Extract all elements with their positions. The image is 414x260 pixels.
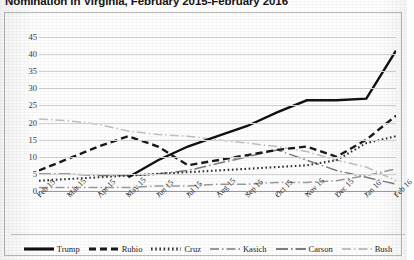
gridline (39, 71, 396, 72)
legend-swatch-carson (276, 244, 306, 254)
gridline (39, 174, 396, 175)
gridline (39, 37, 396, 38)
legend-swatch-kasich (210, 244, 240, 254)
legend-item-rubio[interactable]: Rubio (89, 244, 143, 254)
legend-label-cruz: Cruz (184, 244, 201, 254)
legend-item-kasich[interactable]: Kasich (210, 244, 267, 254)
y-axis-tick-label: 35 (11, 66, 37, 76)
gridline (39, 157, 396, 158)
gridline (39, 140, 396, 141)
gridline (39, 105, 396, 106)
legend-label-bush: Bush (375, 244, 392, 254)
legend-item-bush[interactable]: Bush (342, 244, 392, 254)
legend-item-trump[interactable]: Trump (24, 244, 80, 254)
y-axis-tick-label: 20 (11, 118, 37, 128)
legend-label-kasich: Kasich (243, 244, 267, 254)
y-axis-tick-label: 30 (11, 83, 37, 93)
y-axis-tick-label: 25 (11, 100, 37, 110)
chart-frame: 454035302520151050 Feb 15Mar 15Apr 15May… (4, 12, 402, 256)
legend-label-carson: Carson (309, 244, 333, 254)
gridline (39, 54, 396, 55)
y-axis-tick-label: 45 (11, 32, 37, 42)
series-line-trump (128, 51, 396, 178)
legend-item-carson[interactable]: Carson (276, 244, 333, 254)
gridline (39, 88, 396, 89)
legend-divider (11, 234, 405, 235)
x-axis-labels: Feb 15Mar 15Apr 15May 15Jun 15Jul 15Aug … (39, 193, 399, 229)
y-axis-tick-label: 5 (11, 169, 37, 179)
plot-area (39, 37, 396, 191)
legend-swatch-bush (342, 244, 372, 254)
legend-label-rubio: Rubio (122, 244, 143, 254)
chart-legend: TrumpRubioCruzKasichCarsonBush (13, 239, 403, 259)
series-layer (39, 37, 396, 191)
y-axis-tick-label: 10 (11, 152, 37, 162)
legend-label-trump: Trump (57, 244, 80, 254)
legend-item-cruz[interactable]: Cruz (151, 244, 201, 254)
legend-swatch-trump (24, 244, 54, 254)
y-axis-labels: 454035302520151050 (7, 37, 37, 191)
y-axis-tick-label: 40 (11, 49, 37, 59)
y-axis-tick-label: 0 (11, 186, 37, 196)
legend-swatch-rubio (89, 244, 119, 254)
legend-swatch-cruz (151, 244, 181, 254)
gridline (39, 123, 396, 124)
chart-title: Nomination in Virginia, February 2015-Fe… (5, 0, 405, 11)
y-axis-tick-label: 15 (11, 135, 37, 145)
